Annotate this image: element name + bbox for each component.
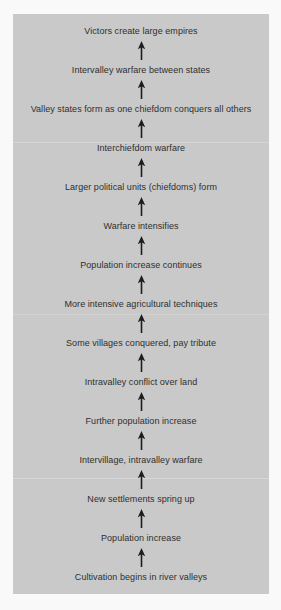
flow-step: Interchiefdom warfare — [13, 139, 269, 158]
arrow-up-icon — [13, 509, 269, 529]
arrow-up-icon — [13, 119, 269, 139]
flow-step: Population increase — [13, 529, 269, 548]
arrow-up-icon — [13, 353, 269, 373]
flow-step: Larger political units (chiefdoms) form — [13, 178, 269, 197]
arrow-up-icon — [13, 470, 269, 490]
flow-step: Victors create large empires — [13, 22, 269, 41]
arrow-up-icon — [13, 158, 269, 178]
flow-step: Some villages conquered, pay tribute — [13, 334, 269, 353]
flow-step: Intervillage, intravalley warfare — [13, 451, 269, 470]
flow-step: Intravalley conflict over land — [13, 373, 269, 392]
arrow-up-icon — [13, 236, 269, 256]
flowchart-panel: Victors create large empiresIntervalley … — [13, 14, 269, 594]
flow-step: Further population increase — [13, 412, 269, 431]
flow-step: New settlements spring up — [13, 490, 269, 509]
flow-step: Valley states form as one chiefdom conqu… — [13, 100, 269, 119]
arrow-up-icon — [13, 197, 269, 217]
arrow-up-icon — [13, 41, 269, 61]
arrow-up-icon — [13, 392, 269, 412]
flow-step: Warfare intensifies — [13, 217, 269, 236]
flow-step: More intensive agricultural techniques — [13, 295, 269, 314]
flow-step: Intervalley warfare between states — [13, 61, 269, 80]
arrow-up-icon — [13, 80, 269, 100]
arrow-up-icon — [13, 431, 269, 451]
flow-step: Population increase continues — [13, 256, 269, 275]
flow-step-stack: Victors create large empiresIntervalley … — [13, 14, 269, 594]
figure-root: Victors create large empiresIntervalley … — [0, 0, 281, 610]
arrow-up-icon — [13, 275, 269, 295]
arrow-up-icon — [13, 548, 269, 568]
flow-step: Cultivation begins in river valleys — [13, 568, 269, 587]
arrow-up-icon — [13, 314, 269, 334]
